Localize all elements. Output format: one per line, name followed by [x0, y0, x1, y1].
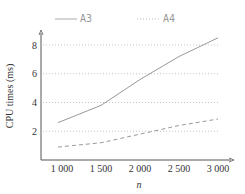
x-tick-label: 3 000	[207, 163, 230, 174]
y-tick-labels: 2468	[32, 40, 37, 137]
x-tick-label: 1 500	[90, 163, 113, 174]
x-tick-label: 2 000	[129, 163, 152, 174]
legend-a4-label: A4	[163, 13, 175, 24]
axes	[39, 30, 234, 162]
series-line-a3	[58, 38, 218, 123]
y-tick-label: 8	[32, 40, 37, 51]
series-lines	[58, 38, 218, 147]
x-tick-labels: 1 0001 5002 0002 5003 000	[51, 163, 230, 174]
cpu-times-chart: A3 A4 2468 1 0001 5002 0002 5003 000 CPU…	[0, 0, 245, 194]
y-axis-label: CPU times (ms)	[4, 64, 16, 128]
legend-a3-label: A3	[80, 13, 92, 24]
series-line-a4	[58, 119, 218, 147]
x-tick-label: 2 500	[168, 163, 191, 174]
x-tick-label: 1 000	[51, 163, 74, 174]
y-tick-label: 4	[32, 97, 37, 108]
y-tick-label: 2	[32, 126, 37, 137]
y-tick-label: 6	[32, 68, 37, 79]
x-axis-label: n	[137, 179, 142, 190]
legend: A3 A4	[55, 13, 175, 24]
